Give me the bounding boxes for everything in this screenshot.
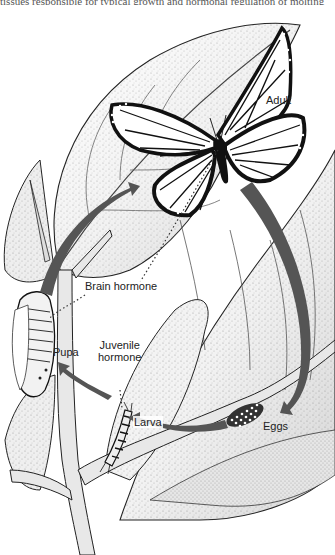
life-cycle-illustration: tissues responsible for typical growth a… xyxy=(0,0,335,555)
left-leaf xyxy=(4,160,55,282)
label-eggs: Eggs xyxy=(263,420,288,432)
label-juvenile-hormone: Juvenile hormone xyxy=(98,339,141,363)
label-adult: Adult xyxy=(266,94,291,106)
pupa xyxy=(12,292,54,397)
label-juvenile-hormone-line1: Juvenile xyxy=(98,339,141,351)
cropped-caption-text: tissues responsible for typical growth a… xyxy=(0,0,335,5)
label-pupa: Pupa xyxy=(53,346,79,358)
label-brain-hormone: Brain hormone xyxy=(84,280,158,292)
label-larva: Larva xyxy=(133,416,163,428)
label-juvenile-hormone-line2: hormone xyxy=(98,351,141,363)
illustration-svg xyxy=(0,0,335,555)
